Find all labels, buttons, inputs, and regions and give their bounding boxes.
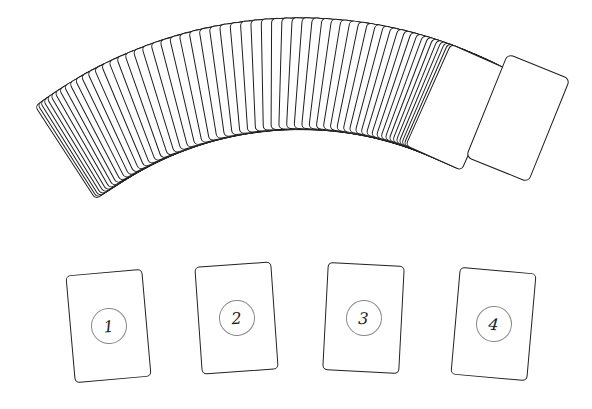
slot-number-1: 1 xyxy=(89,306,128,345)
slot-number-2: 2 xyxy=(217,299,255,337)
card-slot-3[interactable]: 3 xyxy=(322,262,405,374)
slot-number-3: 3 xyxy=(345,299,383,337)
card-slot-1[interactable]: 1 xyxy=(65,269,151,383)
slot-number-4: 4 xyxy=(474,304,513,343)
card-slot-2[interactable]: 2 xyxy=(194,261,278,374)
card-slot-4[interactable]: 4 xyxy=(450,267,536,381)
